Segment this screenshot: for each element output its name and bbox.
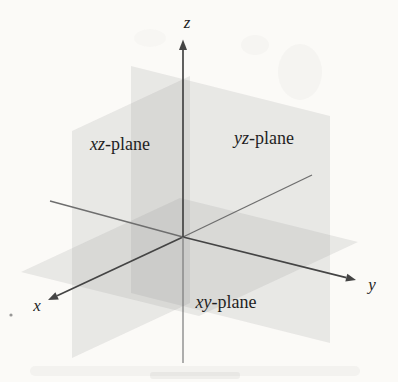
scan-smudge (134, 29, 166, 47)
yz-plane-label-suffix: -plane (249, 128, 294, 148)
y-axis-label: y (366, 275, 376, 294)
xz-plane-label: xz-plane (89, 134, 150, 154)
xz-plane-label-suffix: -plane (105, 134, 150, 154)
scan-speck (9, 313, 12, 316)
scan-smudge (278, 44, 322, 100)
xy-plane-label-axes: xy (195, 292, 212, 312)
coordinate-planes (21, 66, 358, 358)
coordinate-planes-figure: z y x xz-plane yz-plane xy-plane (0, 0, 398, 382)
yz-plane-label: yz-plane (232, 128, 294, 148)
xz-plane-label-axes: xz (89, 134, 105, 154)
yz-plane-label-axes: yz (232, 128, 249, 148)
x-axis-label: x (32, 296, 41, 315)
xy-plane-label: xy-plane (195, 292, 257, 312)
z-axis-arrowhead-icon (179, 40, 187, 51)
scan-bleed-strip (150, 372, 240, 379)
figure-canvas: z y x xz-plane yz-plane xy-plane (0, 0, 398, 382)
x-axis-arrowhead-icon (48, 292, 59, 300)
scan-smudge (241, 35, 269, 55)
y-axis-arrowhead-icon (345, 274, 356, 282)
xy-plane-label-suffix: -plane (212, 292, 257, 312)
z-axis-label: z (183, 13, 191, 32)
